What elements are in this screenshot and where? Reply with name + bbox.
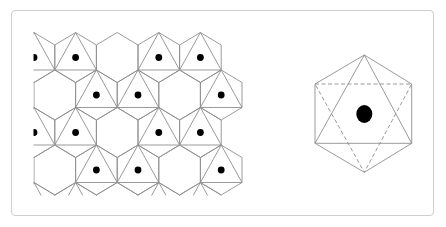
tile-dot <box>93 92 100 99</box>
center-dot <box>356 105 372 123</box>
tile-dot <box>31 129 38 136</box>
tile-triangle <box>76 145 118 183</box>
tile-triangle <box>55 183 97 221</box>
tile-hexagon <box>180 183 222 227</box>
tile-triangle <box>200 70 242 108</box>
tile-dot <box>93 167 100 174</box>
tile-dot <box>72 129 79 136</box>
tile-triangle <box>138 33 180 71</box>
tile-hexagon <box>55 183 97 227</box>
tile-dot <box>197 204 204 211</box>
tile-dot <box>155 54 162 61</box>
tile-triangle <box>13 33 55 71</box>
tile-dot <box>197 54 204 61</box>
tile-dot <box>155 204 162 211</box>
tile-triangle <box>55 108 97 146</box>
tile-dot <box>72 204 79 211</box>
tile-dot <box>218 92 225 99</box>
tile-dot <box>135 167 142 174</box>
tile-triangle <box>76 70 118 108</box>
dashed-triangle <box>315 84 412 172</box>
tile-triangle <box>180 33 222 71</box>
tile-dot <box>72 54 79 61</box>
tile-triangle <box>55 33 97 71</box>
tile-triangle <box>180 183 222 221</box>
tile-dot <box>31 204 38 211</box>
tile-triangle <box>200 145 242 183</box>
tiling-hexagons <box>13 33 242 227</box>
tiling-dots <box>31 54 225 211</box>
tile-hexagon <box>96 108 138 158</box>
tile-triangle <box>180 108 222 146</box>
tile-dot <box>31 54 38 61</box>
tile-hexagon <box>34 70 76 120</box>
tile-hexagon <box>96 33 138 83</box>
solid-triangle <box>315 55 412 143</box>
tile-hexagon <box>159 145 201 195</box>
tile-triangle <box>117 70 159 108</box>
tile-hexagon <box>13 183 55 227</box>
tile-hexagon <box>96 183 138 227</box>
diagram-canvas <box>0 0 446 226</box>
tile-triangle <box>13 183 55 221</box>
tile-hexagon <box>138 183 180 227</box>
tile-triangle <box>117 145 159 183</box>
hexagon-tiling <box>13 33 242 227</box>
tile-hexagon <box>34 145 76 195</box>
tile-dot <box>155 129 162 136</box>
single-hexagon-figure <box>315 55 412 172</box>
tile-dot <box>135 92 142 99</box>
tile-dot <box>197 129 204 136</box>
tile-hexagon <box>159 70 201 120</box>
tile-triangle <box>13 108 55 146</box>
tiling-triangles <box>13 33 242 221</box>
tile-dot <box>218 167 225 174</box>
tile-triangle <box>138 183 180 221</box>
tile-triangle <box>138 108 180 146</box>
